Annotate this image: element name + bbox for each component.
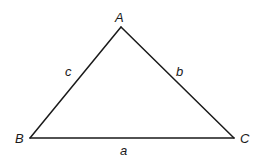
- side-labels: c b a: [65, 64, 183, 158]
- side-b-line: [121, 27, 234, 138]
- side-c-line: [30, 27, 121, 138]
- side-label-c: c: [65, 64, 72, 79]
- vertex-label-a: A: [114, 10, 124, 25]
- side-label-a: a: [120, 143, 127, 158]
- triangle-edges: [30, 27, 234, 138]
- vertex-label-c: C: [240, 131, 250, 146]
- vertex-label-b: B: [15, 131, 24, 146]
- triangle-diagram: A B C c b a: [0, 0, 259, 162]
- side-label-b: b: [176, 64, 183, 79]
- vertex-labels: A B C: [15, 10, 250, 146]
